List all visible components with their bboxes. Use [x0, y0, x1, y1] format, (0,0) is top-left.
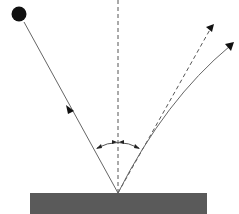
actual-reflected-path [118, 46, 230, 193]
angle-arrow-mid-right-icon [119, 140, 124, 144]
ideal-reflected-ray [118, 26, 212, 193]
surface [30, 193, 207, 214]
ball [12, 7, 27, 22]
angle-arrow-right-icon [134, 144, 140, 149]
reflection-diagram [0, 0, 239, 214]
angle-arrow-left-icon [96, 144, 102, 149]
incident-ray [24, 22, 118, 193]
ideal-arrow-icon [206, 24, 214, 32]
angle-arrow-mid-left-icon [112, 140, 117, 144]
